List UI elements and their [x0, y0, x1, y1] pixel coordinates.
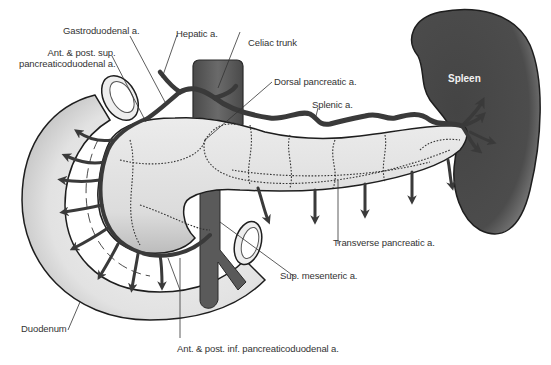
label-superior-mesenteric-artery: Sup. mesenteric a. [280, 270, 357, 281]
label-ant-post-inf-pancreaticoduodenal-artery: Ant. & post. inf. pancreaticoduodenal a. [177, 343, 339, 354]
label-splenic-artery: Splenic a. [312, 99, 353, 110]
label-ant-post-sup-pancreaticoduodenal-artery: Ant. & post. sup. pancreaticoduodenal a. [19, 47, 116, 69]
label-celiac-trunk: Celiac trunk [248, 37, 297, 48]
label-transverse-pancreatic-artery: Transverse pancreatic a. [333, 237, 435, 248]
label-spleen: Spleen [448, 73, 481, 84]
label-hepatic-artery: Hepatic a. [176, 28, 218, 39]
label-duodenum: Duodenum [21, 323, 67, 334]
label-gastroduodenal-artery: Gastroduodenal a. [63, 25, 139, 36]
label-dorsal-pancreatic-artery: Dorsal pancreatic a. [274, 76, 356, 87]
